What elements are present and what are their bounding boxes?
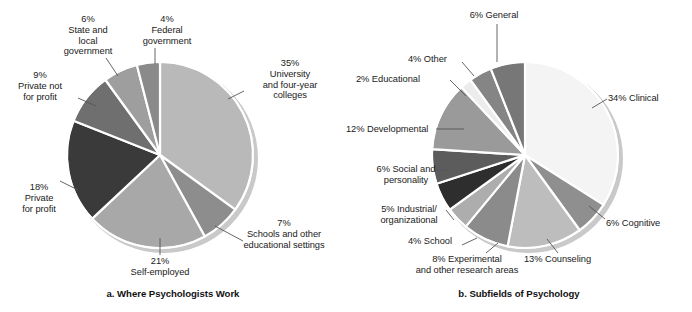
- label-federal-government: 4% Federal government: [124, 14, 210, 46]
- chart-panel-subfields-of-psychology: 6% General34% Clinical6% Cognitive13% Co…: [346, 0, 692, 312]
- label-general: 6% General: [442, 10, 546, 21]
- panel-caption-a: a. Where Psychologists Work: [0, 288, 346, 299]
- label-cognitive: 6% Cognitive: [606, 218, 690, 229]
- label-developmental: 12% Developmental: [346, 124, 464, 135]
- label-industrial-organizational: 5% Industrial/ organizational: [368, 204, 450, 226]
- label-state-local-government: 6% State and local government: [48, 14, 128, 57]
- label-other: 4% Other: [408, 54, 470, 65]
- label-social-personality: 6% Social and personality: [362, 164, 450, 186]
- panel-caption-b: b. Subfields of Psychology: [346, 288, 692, 299]
- label-educational: 2% Educational: [356, 74, 452, 85]
- label-clinical: 34% Clinical: [608, 93, 688, 104]
- label-school: 4% School: [408, 236, 478, 247]
- chart-panel-where-psychologists-work: 35% University and four-year colleges7% …: [0, 0, 346, 312]
- label-private-not-for-profit: 9% Private not for profit: [3, 70, 77, 102]
- label-university: 35% University and four-year colleges: [238, 58, 342, 101]
- label-counseling: 13% Counseling: [524, 254, 624, 265]
- leader-line: [106, 58, 118, 76]
- label-schools: 7% Schools and other educational setting…: [222, 218, 346, 250]
- pie-chart-figure: 35% University and four-year colleges7% …: [0, 0, 692, 312]
- label-experimental: 8% Experimental and other research areas: [402, 254, 532, 276]
- label-private-for-profit: 18% Private for profit: [2, 182, 76, 214]
- label-self-employed: 21% Self-employed: [104, 256, 216, 278]
